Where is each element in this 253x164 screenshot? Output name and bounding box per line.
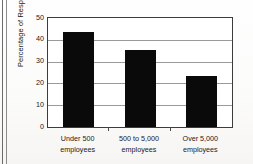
y-tick-label: 50 bbox=[28, 14, 44, 21]
x-axis-tick bbox=[108, 127, 109, 131]
y-tick-label: 0 bbox=[28, 123, 44, 130]
y-tick-label: 40 bbox=[28, 35, 44, 42]
x-axis-tick bbox=[170, 127, 171, 131]
y-tick-label: 20 bbox=[28, 79, 44, 86]
x-axis-category-label-line: employees bbox=[164, 145, 236, 156]
x-axis-category-label: Over 5,000employees bbox=[164, 134, 236, 155]
bar bbox=[186, 76, 217, 127]
chart-figure: Percentage of Respondents 50403020100 Un… bbox=[0, 0, 253, 164]
scan-edge-line-1 bbox=[2, 0, 3, 164]
bar bbox=[125, 50, 156, 127]
y-tick-label: 10 bbox=[28, 101, 44, 108]
bar bbox=[63, 32, 94, 127]
plot-area bbox=[47, 17, 233, 128]
y-tick-label: 30 bbox=[28, 57, 44, 64]
plot-inner bbox=[48, 18, 232, 127]
scan-edge-line-2 bbox=[6, 0, 7, 164]
x-axis-category-label-line: Over 5,000 bbox=[164, 134, 236, 145]
